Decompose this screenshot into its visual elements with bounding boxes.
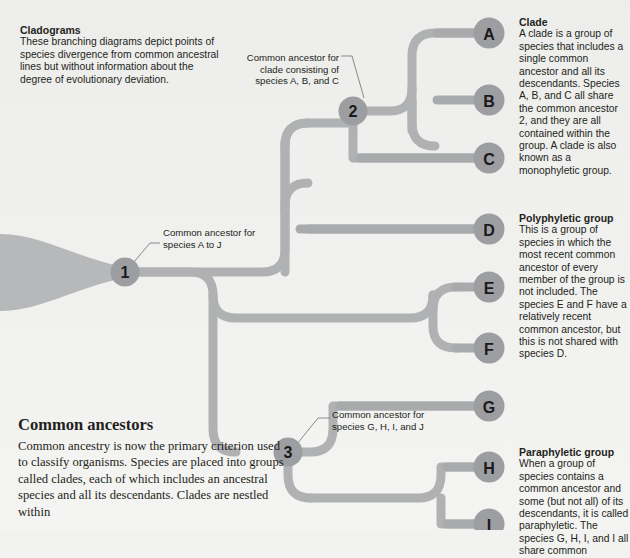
cladograms-heading: Cladograms [20, 24, 220, 36]
common-ancestors-heading: Common ancestors [18, 415, 286, 435]
species-node-E[interactable]: E [474, 272, 505, 303]
common-ancestors-text-block: Common ancestors Common ancestry is now … [18, 415, 286, 520]
species-label-C: C [483, 151, 495, 168]
species-label-E: E [484, 280, 495, 297]
cladograms-body: These branching diagrams depict points o… [20, 36, 219, 84]
species-node-F[interactable]: F [474, 333, 505, 364]
species-label-A: A [483, 26, 495, 43]
paraphyletic-text-block: Paraphyletic group When a group of speci… [519, 446, 629, 558]
annotation-node-3: Common ancestor for species G, H, I, and… [332, 409, 440, 432]
species-node-A[interactable]: A [474, 18, 505, 49]
clade-body: A clade is a group of species that inclu… [519, 28, 623, 175]
species-label-H: H [483, 460, 495, 477]
node-2-label: 2 [349, 103, 358, 120]
species-node-D[interactable]: D [474, 214, 505, 245]
cladograms-text-block: Cladograms These branching diagrams depi… [20, 24, 220, 86]
annotation-node-1: Common ancestor for species A to J [163, 227, 273, 250]
clade-heading: Clade [519, 16, 625, 28]
species-label-F: F [484, 341, 494, 358]
paraphyletic-body: When a group of species contains a commo… [519, 458, 628, 556]
common-ancestors-body: Common ancestry is now the primary crite… [18, 439, 284, 519]
species-label-G: G [483, 399, 495, 416]
species-label-I: I [487, 517, 491, 531]
annotation-node-2: Common ancestor for clade consisting of … [231, 52, 339, 87]
node-2[interactable]: 2 [339, 97, 368, 126]
node-1[interactable]: 1 [111, 258, 140, 287]
clade-text-block: Clade A clade is a group of species that… [519, 16, 625, 177]
polyphyletic-heading: Polyphyletic group [519, 212, 629, 224]
species-node-G[interactable]: G [474, 391, 505, 422]
species-label-B: B [483, 93, 495, 110]
polyphyletic-body: This is a group of species in which the … [519, 224, 627, 359]
paraphyletic-heading: Paraphyletic group [519, 446, 629, 458]
species-node-C[interactable]: C [474, 143, 505, 174]
species-node-B[interactable]: B [474, 85, 505, 116]
species-label-D: D [483, 222, 495, 239]
polyphyletic-text-block: Polyphyletic group This is a group of sp… [519, 212, 629, 361]
node-1-label: 1 [121, 264, 130, 281]
species-node-H[interactable]: H [474, 452, 505, 483]
